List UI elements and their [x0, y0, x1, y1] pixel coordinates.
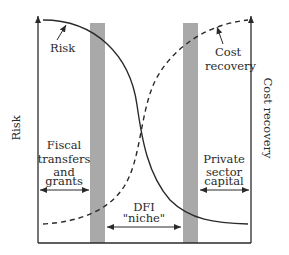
- cost-recovery-label-line2: recovery: [205, 59, 256, 73]
- right-axis-label: Cost recovery: [261, 78, 275, 159]
- cost-recovery-pointer-arrow: [217, 27, 223, 44]
- risk-curve-label: Risk: [50, 41, 76, 55]
- dfi-label-line2: "niche": [123, 211, 165, 225]
- right-boundary-band: [183, 23, 198, 243]
- private-label-line1: Private: [203, 152, 245, 166]
- left-axis-label: Risk: [9, 114, 23, 140]
- risk-pointer-arrow: [57, 25, 66, 40]
- cost-recovery-label-line1: Cost: [215, 45, 242, 59]
- private-label-line3: capital: [204, 174, 244, 188]
- dfi-niche-diagram: Risk Cost recovery Fiscal transfers and …: [0, 0, 289, 255]
- fiscal-label-line4: grants: [45, 174, 83, 188]
- fiscal-label-line2: transfers: [38, 152, 91, 166]
- fiscal-label-line1: Fiscal: [47, 138, 82, 152]
